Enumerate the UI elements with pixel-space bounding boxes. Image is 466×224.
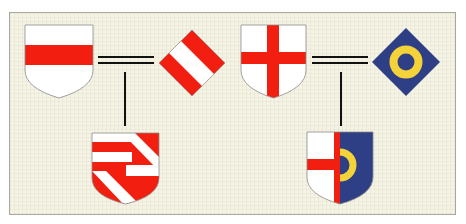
shield-child-left bbox=[92, 133, 159, 207]
marriage-line-right bbox=[312, 56, 368, 64]
family-left bbox=[25, 25, 225, 207]
descent-line-right bbox=[340, 72, 342, 126]
family-right bbox=[241, 25, 440, 205]
shield-cross bbox=[241, 25, 306, 98]
lozenge-bend bbox=[159, 30, 225, 96]
descent-line-left bbox=[124, 72, 126, 126]
shield-child-right bbox=[307, 132, 373, 205]
heraldry-diagram bbox=[0, 0, 466, 224]
caption bbox=[9, 217, 456, 224]
marriage-line-left bbox=[98, 56, 154, 64]
lozenge-annulet bbox=[372, 28, 440, 96]
shield-fess bbox=[25, 25, 93, 98]
